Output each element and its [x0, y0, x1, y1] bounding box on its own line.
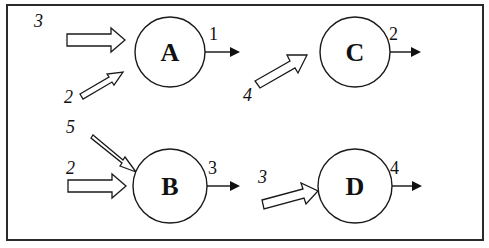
input-quantity-d-1: 3	[257, 167, 267, 187]
output-quantity-b: 3	[208, 158, 217, 178]
input-quantity-a-1: 3	[33, 11, 43, 31]
output-quantity-d: 4	[390, 158, 399, 178]
node-a-label: A	[161, 38, 180, 67]
node-b-label: B	[161, 172, 178, 201]
node-d-label: D	[346, 172, 365, 201]
input-quantity-b-1: 5	[66, 117, 75, 137]
output-quantity-c: 2	[389, 24, 398, 44]
input-quantity-a-2: 2	[64, 87, 73, 107]
flow-diagram: 3 2 A 1 4 C 2 5 2 B 3	[0, 0, 489, 248]
input-quantity-b-2: 2	[66, 158, 75, 178]
node-c-label: C	[346, 38, 365, 67]
input-quantity-c-1: 4	[243, 85, 252, 105]
output-quantity-a: 1	[209, 24, 218, 44]
